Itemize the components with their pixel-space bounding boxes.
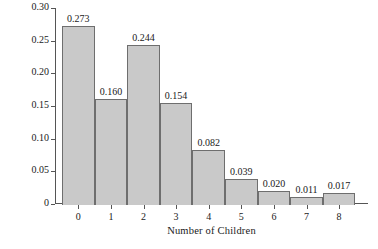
- x-tick-label-4: 4: [194, 211, 224, 222]
- y-tick-mark: [51, 204, 55, 205]
- y-tick-label: 0.05: [15, 164, 49, 175]
- bar-2: [127, 45, 160, 205]
- bar-3: [160, 103, 193, 205]
- x-tick-label-5: 5: [226, 211, 256, 222]
- x-tick-label-1: 1: [96, 211, 126, 222]
- bar-4: [192, 150, 225, 205]
- x-tick-label-0: 0: [63, 211, 93, 222]
- bar-value-label-5: 0.039: [218, 166, 264, 177]
- y-tick-label: 0.25: [15, 34, 49, 45]
- bar-8: [323, 193, 356, 205]
- bar-1: [95, 99, 128, 205]
- x-tick-label-7: 7: [292, 211, 322, 222]
- plot-area: 00.050.100.150.200.250.30 012345678 0.27…: [55, 8, 368, 204]
- y-axis-line: [55, 8, 56, 204]
- y-tick-label: 0: [15, 197, 49, 208]
- bar-value-label-0: 0.273: [55, 13, 101, 24]
- y-tick-label: 0.30: [15, 1, 49, 12]
- x-tick-label-6: 6: [259, 211, 289, 222]
- y-tick-label: 0.15: [15, 99, 49, 110]
- bar-value-label-3: 0.154: [153, 90, 199, 101]
- y-tick-label: 0.20: [15, 66, 49, 77]
- y-tick-mark: [51, 171, 55, 172]
- y-tick-mark: [51, 73, 55, 74]
- bar-value-label-8: 0.017: [316, 180, 362, 191]
- y-tick-mark: [51, 139, 55, 140]
- probability-bar-chart: Probability 00.050.100.150.200.250.30 01…: [0, 0, 378, 249]
- bar-value-label-4: 0.082: [186, 137, 232, 148]
- x-axis-title: Number of Children: [55, 225, 368, 236]
- bar-7: [290, 197, 323, 205]
- bar-value-label-2: 0.244: [121, 32, 167, 43]
- y-tick-mark: [51, 41, 55, 42]
- x-tick-label-2: 2: [129, 211, 159, 222]
- y-tick-mark: [51, 106, 55, 107]
- y-tick-label: 0.10: [15, 132, 49, 143]
- bar-0: [62, 26, 95, 205]
- x-tick-label-3: 3: [161, 211, 191, 222]
- x-tick-label-8: 8: [324, 211, 354, 222]
- y-tick-mark: [51, 8, 55, 9]
